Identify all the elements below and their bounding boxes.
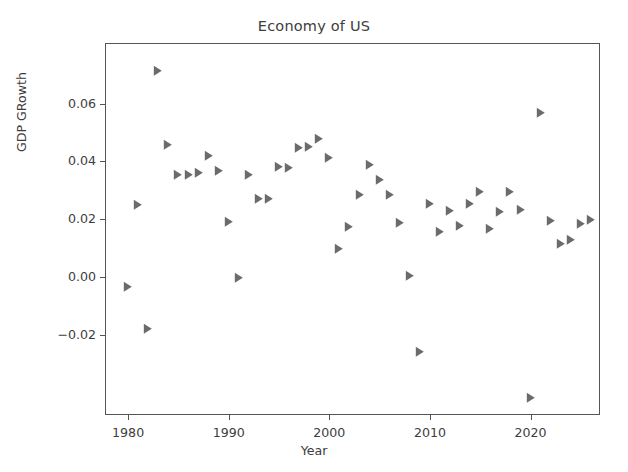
data-point <box>174 170 182 180</box>
data-point <box>124 282 132 292</box>
data-point <box>255 194 263 204</box>
data-point <box>285 163 293 173</box>
data-point <box>355 189 363 199</box>
data-point <box>446 206 454 216</box>
y-tick <box>100 219 106 220</box>
y-tick <box>100 335 106 336</box>
data-point <box>496 207 504 217</box>
data-point <box>295 143 303 153</box>
y-tick <box>100 104 106 105</box>
data-point <box>476 186 484 196</box>
x-tick <box>128 414 129 420</box>
data-point <box>456 221 464 231</box>
chart-title: Economy of US <box>0 18 628 34</box>
data-point <box>335 244 343 254</box>
plot-area: −0.020.000.020.040.06 198019902000201020… <box>105 43 600 415</box>
data-point <box>235 272 243 282</box>
data-point <box>305 142 313 152</box>
data-point <box>275 162 283 172</box>
data-point <box>516 205 524 215</box>
data-point <box>204 151 212 161</box>
y-tick-label: 0.00 <box>48 269 96 284</box>
x-tick <box>329 414 330 420</box>
data-point <box>265 194 273 204</box>
x-tick-label: 2020 <box>515 425 547 440</box>
chart-figure: Economy of US GDP GRowth Year −0.020.000… <box>0 0 628 472</box>
data-point <box>526 393 534 403</box>
data-point <box>245 170 253 180</box>
data-point <box>396 217 404 227</box>
data-point <box>194 168 202 178</box>
data-point <box>184 170 192 180</box>
data-point <box>536 108 544 118</box>
y-tick-label: 0.02 <box>48 211 96 226</box>
data-point <box>546 216 554 226</box>
data-point <box>154 66 162 76</box>
y-tick <box>100 277 106 278</box>
data-point <box>406 271 414 281</box>
data-point <box>506 186 514 196</box>
data-point <box>466 199 474 209</box>
data-point <box>375 175 383 185</box>
data-point <box>325 153 333 163</box>
x-axis-label: Year <box>0 443 628 458</box>
x-tick-label: 2000 <box>313 425 345 440</box>
data-point <box>214 165 222 175</box>
data-point <box>486 223 494 233</box>
y-axis-label: GDP GRowth <box>14 72 29 152</box>
data-point <box>386 189 394 199</box>
data-point <box>567 235 575 245</box>
scatter-points <box>106 44 599 414</box>
x-tick <box>229 414 230 420</box>
y-tick <box>100 161 106 162</box>
data-point <box>557 239 565 249</box>
data-point <box>225 217 233 227</box>
data-point <box>315 133 323 143</box>
y-tick-label: −0.02 <box>48 327 96 342</box>
data-point <box>577 219 585 229</box>
x-tick-label: 2010 <box>414 425 446 440</box>
data-point <box>134 200 142 210</box>
data-point <box>345 221 353 231</box>
y-tick-label: 0.06 <box>48 96 96 111</box>
x-tick <box>430 414 431 420</box>
data-point <box>144 324 152 334</box>
data-point <box>587 215 595 225</box>
x-tick-label: 1990 <box>213 425 245 440</box>
data-point <box>416 347 424 357</box>
data-point <box>164 139 172 149</box>
x-tick <box>531 414 532 420</box>
data-point <box>426 198 434 208</box>
y-tick-label: 0.04 <box>48 153 96 168</box>
data-point <box>365 160 373 170</box>
data-point <box>436 227 444 237</box>
x-tick-label: 1980 <box>112 425 144 440</box>
